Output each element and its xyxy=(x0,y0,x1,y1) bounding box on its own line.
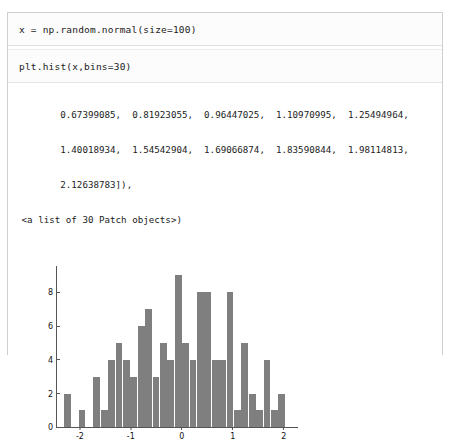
input-cell-1[interactable]: x = np.random.normal(size=100) xyxy=(8,13,442,46)
histogram-bar xyxy=(249,394,256,428)
histogram-bar xyxy=(219,360,226,428)
x-axis-tick-label: -2 xyxy=(76,427,84,441)
output-text-block: 0.67399085, 0.81923055, 0.96447025, 1.10… xyxy=(8,83,442,250)
histogram-bar xyxy=(123,360,130,428)
y-axis-tick-label: 6 xyxy=(48,322,57,331)
y-axis-tick-label: 2 xyxy=(48,389,57,398)
histogram-bar xyxy=(167,360,174,428)
histogram-bar xyxy=(64,394,71,428)
histogram-bar xyxy=(101,410,108,427)
histogram-bar xyxy=(116,343,123,427)
histogram-bar xyxy=(153,377,160,428)
histogram-bar xyxy=(241,343,248,427)
y-axis-tick-label: 4 xyxy=(48,355,57,364)
histogram-bar xyxy=(93,377,100,428)
histogram-bars xyxy=(57,266,298,427)
x-axis-tick-label: -1 xyxy=(127,427,135,441)
histogram-bar xyxy=(108,360,115,428)
histogram-bar xyxy=(271,410,278,427)
x-axis-tick-label: 1 xyxy=(230,427,235,441)
histogram-bar xyxy=(190,360,197,428)
histogram-bar xyxy=(204,292,211,427)
input-cell-2-code[interactable]: plt.hist(x,bins=30) xyxy=(19,61,131,72)
histogram-bar xyxy=(197,292,204,427)
input-cell-1-code[interactable]: x = np.random.normal(size=100) xyxy=(19,24,197,35)
input-cell-2[interactable]: plt.hist(x,bins=30) xyxy=(8,50,442,83)
x-axis-tick-label: 0 xyxy=(179,427,184,441)
histogram-bar xyxy=(79,410,86,427)
histogram-bar xyxy=(138,326,145,427)
histogram-bar xyxy=(227,292,234,427)
histogram-bar xyxy=(175,275,182,427)
notebook-container: x = np.random.normal(size=100) plt.hist(… xyxy=(7,12,443,355)
histogram-bar xyxy=(234,410,241,427)
output-line: 1.40018934, 1.54542904, 1.69066874, 1.83… xyxy=(8,144,442,156)
output-line: <a list of 30 Patch objects>) xyxy=(8,214,442,226)
histogram-bar xyxy=(212,360,219,428)
plot-axes: 02468 -2-1012 xyxy=(56,266,298,428)
histogram-bar xyxy=(145,309,152,427)
histogram-bar xyxy=(160,343,167,427)
output-line: 2.12638783]), xyxy=(8,179,442,191)
histogram-bar xyxy=(130,377,137,428)
output-line: 0.67399085, 0.81923055, 0.96447025, 1.10… xyxy=(8,109,442,121)
histogram-bar xyxy=(264,360,271,428)
figure-output: 02468 -2-1012 xyxy=(8,250,442,443)
x-axis-tick-label: 2 xyxy=(281,427,286,441)
histogram-bar xyxy=(256,410,263,427)
histogram-bar xyxy=(182,343,189,427)
y-axis-tick-label: 0 xyxy=(48,423,57,432)
histogram-figure: 02468 -2-1012 xyxy=(26,256,316,443)
histogram-bar xyxy=(278,394,285,428)
y-axis-tick-label: 8 xyxy=(48,288,57,297)
